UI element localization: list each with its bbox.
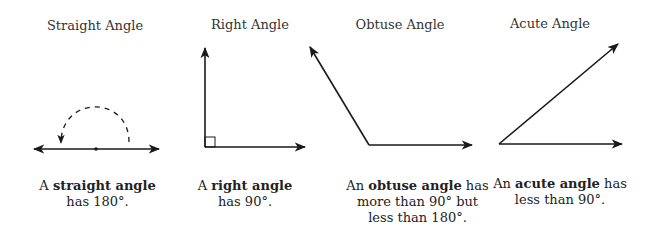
- obtuse-angle-figure: [310, 47, 472, 145]
- slanted-ray: [499, 44, 618, 144]
- acute-angle-figure: [499, 44, 622, 144]
- right-angle-caption: A right angle has 90°.: [185, 178, 305, 210]
- term: straight angle: [53, 178, 156, 193]
- right-angle-figure: [205, 48, 305, 147]
- obtuse-angle-caption: An obtuse angle has more than 90° but le…: [330, 178, 505, 226]
- slanted-ray: [310, 47, 369, 145]
- acute-angle-caption: An acute angle has less than 90°.: [485, 176, 635, 208]
- right-angle-marker: [205, 137, 215, 147]
- term: obtuse angle: [368, 178, 462, 193]
- vertex-dot: [94, 147, 98, 151]
- term: right angle: [211, 178, 292, 193]
- straight-angle-caption: A straight angle has 180°.: [25, 178, 170, 210]
- term: acute angle: [515, 176, 600, 191]
- dashed-arc-arrow: [61, 107, 129, 143]
- straight-angle-figure: [34, 107, 159, 151]
